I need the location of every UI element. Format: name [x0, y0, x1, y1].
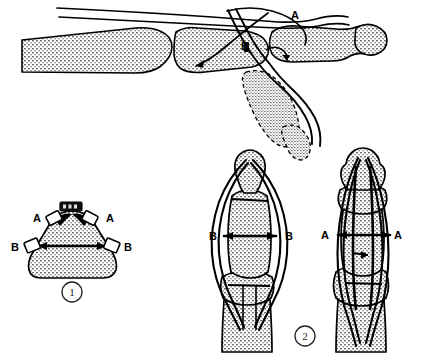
distal-tuft — [355, 24, 387, 55]
label-b-right-dorsal: B — [285, 230, 293, 242]
label-a-right-dorsal: A — [394, 229, 402, 241]
label-b-left-dorsal: B — [209, 230, 217, 242]
dorsal-tendon-block-highlight-2 — [69, 205, 72, 209]
label-b-left-cross: B — [11, 241, 19, 253]
label-a-right-cross: A — [106, 212, 114, 224]
dorsal-left-band-lower — [228, 285, 270, 286]
figure-root: A B A A B B 1 — [0, 0, 422, 354]
label-a-lateral: A — [291, 9, 299, 21]
dorsal-tendon-block-highlight-3 — [74, 205, 77, 209]
dorsal-right-band — [345, 283, 382, 284]
label-a-left-cross: A — [33, 212, 41, 224]
panel-number-1: 1 — [69, 286, 75, 298]
dorsal-tendon-block-highlight-1 — [63, 205, 66, 209]
label-a-left-dorsal: A — [321, 229, 329, 241]
panel-number-2: 2 — [302, 330, 308, 342]
label-b-lateral: B — [241, 40, 249, 52]
anatomical-illustration: A B A A B B 1 — [0, 0, 422, 354]
dorsal-left-middle-phalanx — [228, 190, 271, 278]
label-b-right-cross: B — [124, 241, 132, 253]
